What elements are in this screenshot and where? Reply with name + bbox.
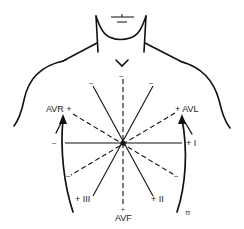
lead-i-label: + I [186,138,196,148]
center-point [120,140,125,145]
avf-label: AVF [115,213,132,223]
right-arrowhead-icon [178,114,186,124]
left-arrowhead-icon [59,114,67,124]
lead-i-minus: − [52,139,57,148]
lead-ii-minus: − [89,79,94,88]
avf-minus: − [119,72,124,81]
neck-left-curve [96,16,112,38]
lead-ii-label: + II [151,194,164,204]
avl-minus: − [66,172,71,181]
avl-label: + AVL [175,104,199,114]
left-arrow-curve [62,119,73,212]
neck-mark-icon [111,14,134,22]
chin-curve [112,16,146,40]
hexaxial-diagram: AVR + + AVL + I + II + III + AVF π − − −… [0,0,244,229]
avr-label: AVR + [46,104,72,114]
corner-mark: π [185,208,191,217]
suprasternal-notch [116,60,128,66]
avr-minus: − [174,172,179,181]
right-shoulder-arm [145,43,230,128]
lead-iii-label: + III [75,194,90,204]
lead-iii-minus: − [149,79,154,88]
right-arrow-curve [177,119,185,212]
